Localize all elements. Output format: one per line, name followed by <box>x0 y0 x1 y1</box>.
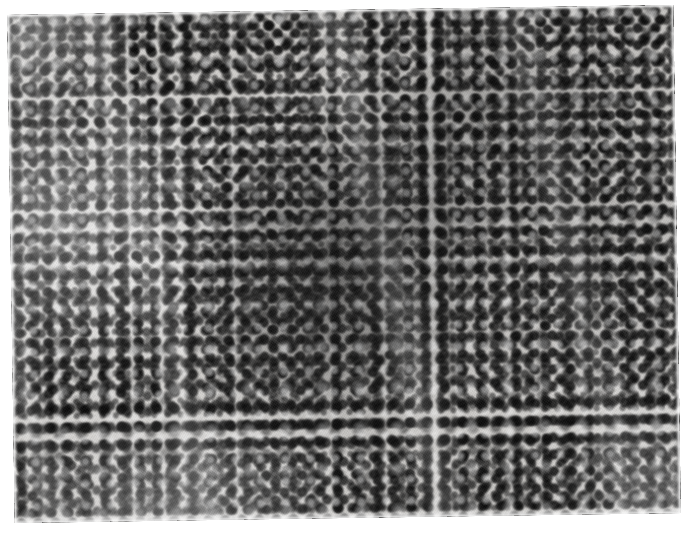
sinus-streak-layer <box>7 5 680 523</box>
histopathology-micrograph <box>7 5 680 523</box>
page-canvas <box>0 0 687 547</box>
